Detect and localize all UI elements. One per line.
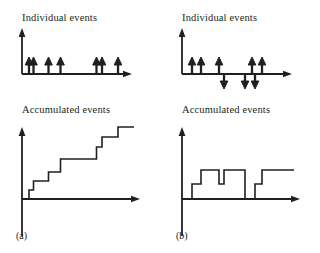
y-axis-arrowhead-a-individual (19, 28, 26, 37)
event-arrows-a-individual (25, 57, 122, 74)
cumulative-stepfunction-b (182, 170, 294, 199)
event-arrow-up (258, 57, 266, 74)
event-arrow-up (114, 57, 122, 74)
event-arrow-down (241, 74, 249, 89)
panel-a-individual-title: Individual events (22, 12, 97, 23)
event-arrow-up (197, 57, 205, 74)
panel-a-individual-events: Individual events (0, 0, 160, 100)
panel-b-individual-events: Individual events (160, 0, 320, 100)
panel-b-individual-title: Individual events (182, 12, 257, 23)
x-axis-arrowhead-b-accumulated (291, 196, 300, 202)
y-axis-arrowhead-a-accumulated (19, 127, 26, 136)
subfigure-label-b: (b) (176, 230, 188, 241)
x-axis-arrowhead-b-individual (283, 71, 292, 77)
event-arrow-up (57, 57, 65, 74)
event-arrow-up (98, 57, 106, 74)
y-axis-arrowhead-b-individual (179, 28, 186, 37)
event-arrow-up (30, 57, 38, 74)
subfigure-label-a: (a) (16, 230, 27, 241)
event-arrow-up (188, 57, 196, 74)
event-arrow-down (251, 74, 259, 89)
figure-root: Individual events (0, 0, 320, 253)
event-arrow-up (248, 57, 256, 74)
panel-a-accumulated-events: Accumulated events (a) (0, 96, 160, 253)
event-arrow-up (215, 57, 223, 74)
x-axis-arrowhead-a-accumulated (131, 196, 140, 202)
event-arrow-up (45, 57, 53, 74)
panel-a-accumulated-title: Accumulated events (22, 104, 110, 115)
event-arrows-b-individual (188, 57, 266, 89)
x-axis-arrowhead-a-individual (123, 71, 132, 77)
y-axis-arrowhead-b-accumulated (179, 127, 186, 136)
event-arrow-down (220, 74, 228, 89)
panel-b-accumulated-events: Accumulated events (b) (160, 96, 320, 253)
cumulative-staircase-a (22, 127, 134, 199)
panel-b-accumulated-title: Accumulated events (182, 104, 270, 115)
